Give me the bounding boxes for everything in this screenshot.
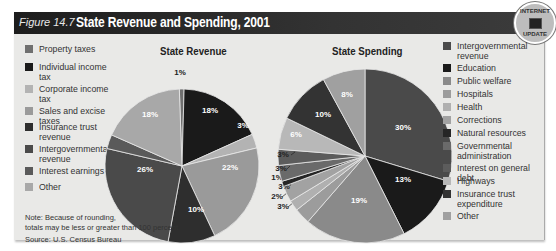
legend-label: Corrections bbox=[457, 115, 536, 125]
slice-label: 30% bbox=[395, 123, 411, 132]
legend-swatch bbox=[443, 103, 451, 111]
spending-chart-title: State Spending bbox=[332, 45, 402, 57]
slice-label: 10% bbox=[188, 205, 204, 214]
slice-label: 6% bbox=[290, 130, 302, 139]
legend-label: Intergovernmental revenue bbox=[457, 41, 536, 61]
legend-swatch bbox=[443, 64, 451, 72]
note-line-2: totals may be less or greater than 100 p… bbox=[25, 223, 180, 233]
legend-label: Hospitals bbox=[457, 89, 536, 99]
slice-label: 10% bbox=[315, 110, 331, 119]
legend-label: Highways bbox=[457, 176, 536, 186]
legend-swatch bbox=[443, 77, 451, 85]
slice-label: 8% bbox=[341, 90, 353, 99]
legend-swatch bbox=[443, 190, 451, 198]
note-line-1: Note: Because of rounding, bbox=[25, 213, 180, 223]
slice-label: 18% bbox=[142, 110, 158, 119]
legend-swatch bbox=[443, 90, 451, 98]
slice-label: 26% bbox=[137, 165, 153, 174]
slice-label: 18% bbox=[202, 106, 218, 115]
legend-label: Governmental administration bbox=[457, 141, 536, 161]
legend-swatch bbox=[443, 42, 451, 50]
legend-swatch bbox=[443, 142, 451, 150]
spending-legend: Intergovernmental revenueEducationPublic… bbox=[443, 41, 543, 241]
legend-label: Natural resources bbox=[457, 128, 536, 138]
legend-swatch bbox=[443, 212, 451, 220]
slice-label: 1% bbox=[174, 68, 186, 77]
legend-label: Other bbox=[457, 211, 536, 221]
slice-label: 2% bbox=[271, 192, 283, 201]
slice-label: 3% bbox=[237, 121, 249, 130]
source-line: Source: U.S. Census Bureau bbox=[25, 235, 180, 245]
legend-swatch bbox=[443, 164, 451, 172]
legend-swatch bbox=[443, 177, 451, 185]
slice-label: 13% bbox=[395, 175, 411, 184]
slice-label: 3% bbox=[277, 150, 289, 159]
legend-swatch bbox=[443, 116, 451, 124]
slice-label: 19% bbox=[351, 196, 367, 205]
legend-label: Health bbox=[457, 102, 536, 112]
chart-note: Note: Because of rounding, totals may be… bbox=[25, 213, 180, 245]
slice-label: 22% bbox=[222, 163, 238, 172]
legend-swatch bbox=[443, 129, 451, 137]
legend-label: Public welfare bbox=[457, 76, 536, 86]
legend-label: Education bbox=[457, 63, 536, 73]
slice-label: 3% bbox=[277, 202, 289, 211]
legend-label: Insurance trust expenditure bbox=[457, 189, 536, 209]
